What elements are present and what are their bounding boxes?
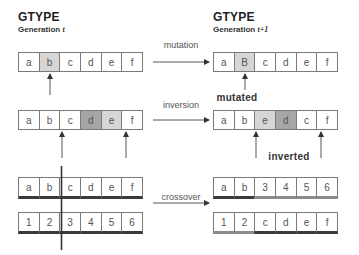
diagram-arrows (0, 0, 359, 255)
